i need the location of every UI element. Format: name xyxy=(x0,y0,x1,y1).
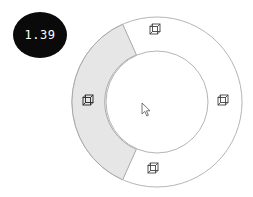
cube-icon[interactable] xyxy=(217,94,229,106)
pie-menu xyxy=(0,0,253,197)
cube-icon[interactable] xyxy=(147,162,159,174)
cube-icon[interactable] xyxy=(149,23,161,35)
pie-center[interactable] xyxy=(106,51,208,153)
arrow-cursor-icon xyxy=(141,102,151,118)
cube-icon[interactable] xyxy=(82,94,94,106)
